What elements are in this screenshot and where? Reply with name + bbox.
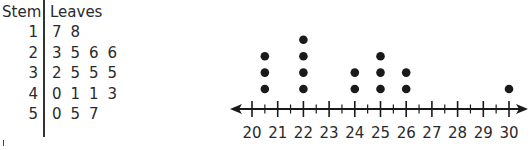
tick-label: 30 <box>499 124 518 142</box>
tick-label: 29 <box>474 124 493 142</box>
dot-plot: 2021222324252627282930 <box>0 0 531 150</box>
data-dot <box>299 52 308 61</box>
tick-label: 25 <box>371 124 390 142</box>
number-line <box>230 101 528 117</box>
data-dot <box>299 68 308 77</box>
data-dot <box>299 85 308 94</box>
data-dot <box>376 52 385 61</box>
tick-label: 26 <box>397 124 416 142</box>
data-dot <box>376 85 385 94</box>
tick-label: 22 <box>294 124 313 142</box>
data-dot <box>402 68 411 77</box>
tick-label: 23 <box>320 124 339 142</box>
data-dot <box>351 85 360 94</box>
data-dot <box>505 85 514 94</box>
data-dot <box>261 85 270 94</box>
data-dot <box>299 36 308 45</box>
data-dot <box>261 52 270 61</box>
data-dot <box>351 68 360 77</box>
data-dot <box>402 85 411 94</box>
data-dot <box>261 68 270 77</box>
tick-label: 27 <box>422 124 441 142</box>
tick-label: 28 <box>448 124 467 142</box>
dots <box>261 36 514 94</box>
axis-labels: 2021222324252627282930 <box>242 124 518 142</box>
tick-label: 21 <box>268 124 287 142</box>
data-dot <box>376 68 385 77</box>
tick-label: 24 <box>345 124 364 142</box>
tick-label: 20 <box>242 124 261 142</box>
